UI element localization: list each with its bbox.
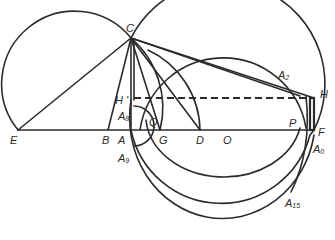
label-a8: A8 xyxy=(117,110,129,122)
label-a0: A0 xyxy=(312,143,324,155)
left-semicircle xyxy=(2,11,131,130)
line-ec xyxy=(18,38,131,130)
label-d: D xyxy=(196,134,204,146)
label-q: Q xyxy=(149,116,158,128)
label-p: P xyxy=(289,117,297,129)
label-a: A xyxy=(117,134,125,146)
geometry-diagram: C E B A G D O P F H H ' Q A2 A8 A9 A0 A1… xyxy=(0,0,335,240)
label-b: B xyxy=(102,134,109,146)
label-h: H xyxy=(320,88,328,100)
label-h-prime: H ' xyxy=(115,94,129,106)
line-c-a2 xyxy=(131,38,300,96)
label-g: G xyxy=(159,134,168,146)
large-circle-top xyxy=(131,0,325,130)
label-a9: A9 xyxy=(117,152,129,164)
label-c: C xyxy=(126,22,134,34)
label-o: O xyxy=(223,134,232,146)
label-a15: A15 xyxy=(284,197,300,209)
label-e: E xyxy=(10,134,18,146)
label-f: F xyxy=(318,126,326,138)
line-cd xyxy=(131,38,200,130)
label-a2: A2 xyxy=(277,69,289,81)
rect-hf xyxy=(310,98,314,130)
inner-lower-arc xyxy=(146,120,300,177)
